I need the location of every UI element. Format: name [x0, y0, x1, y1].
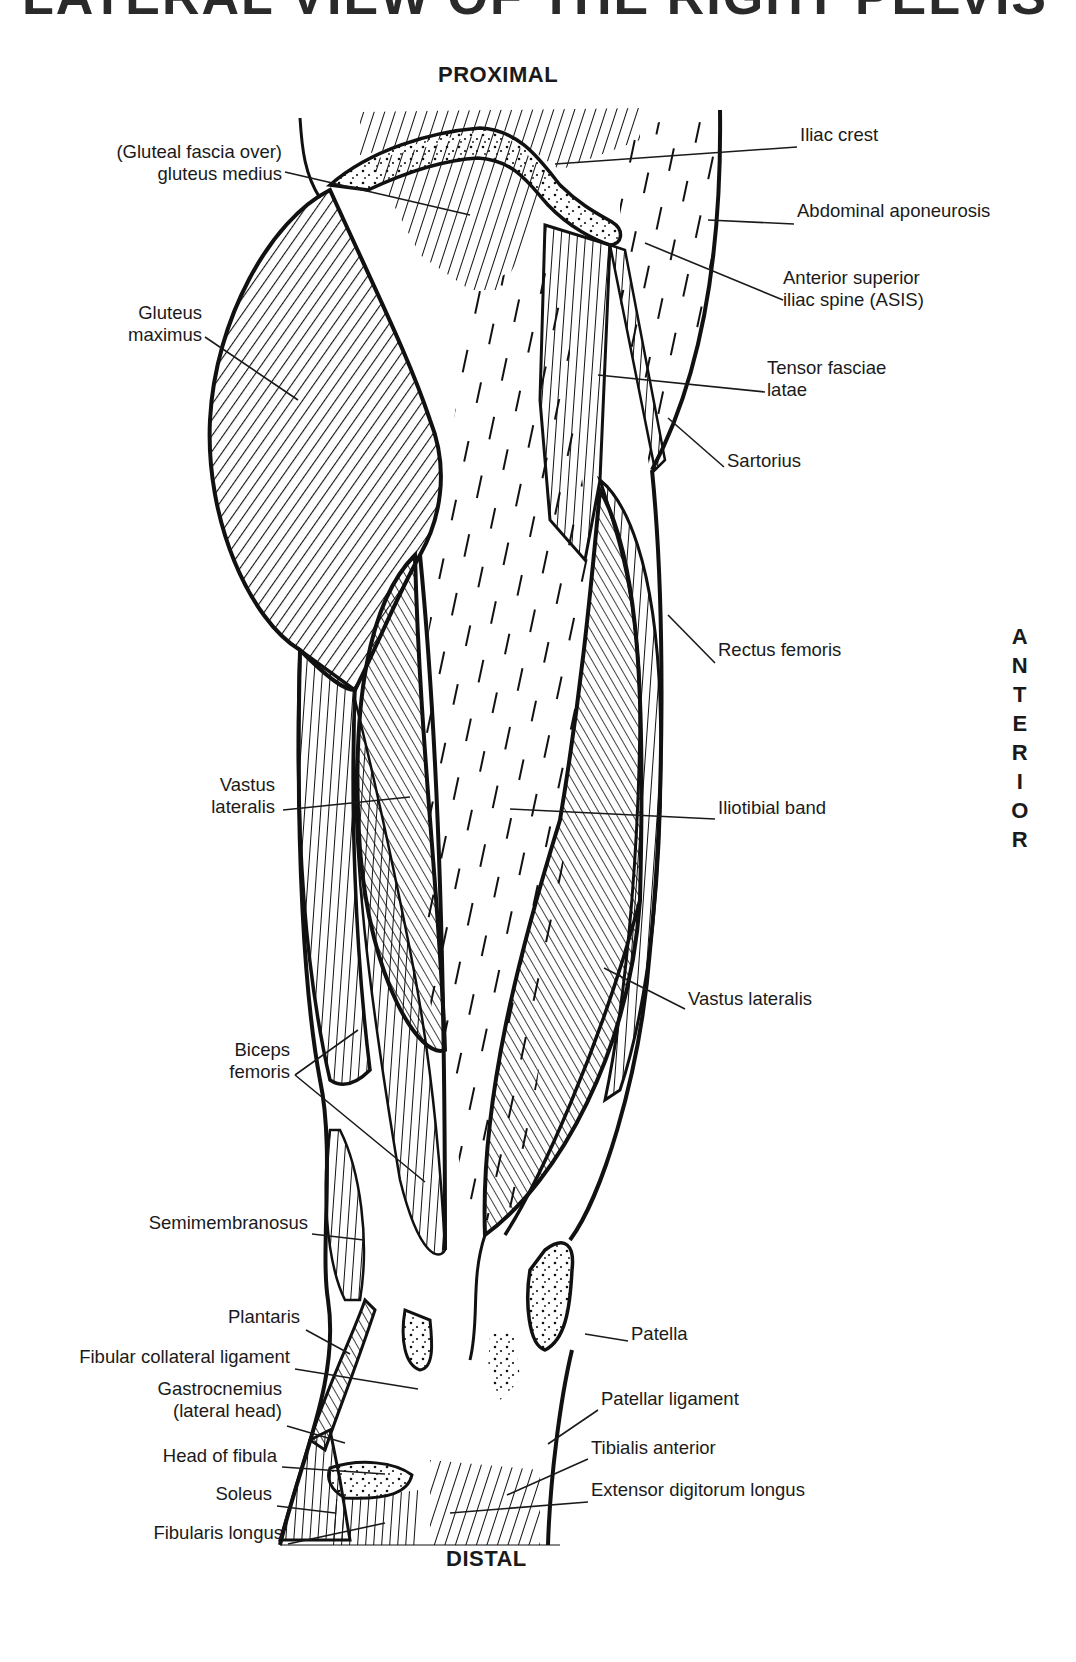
leader-line-vastus-lateralis-right	[604, 968, 685, 1009]
label-line: Tibialis anterior	[591, 1437, 716, 1459]
label-fibular-collateral-ligament: Fibular collateral ligament	[0, 1346, 290, 1368]
label-gastrocnemius: Gastrocnemius(lateral head)	[0, 1378, 282, 1422]
label-iliotibial-band: Iliotibial band	[718, 797, 826, 819]
label-vastus-lateralis-right: Vastus lateralis	[688, 988, 812, 1010]
leader-line-plantaris	[306, 1330, 350, 1354]
label-soleus: Soleus	[0, 1483, 272, 1505]
leader-line-semimembranosus	[312, 1234, 364, 1240]
label-tibialis-anterior: Tibialis anterior	[591, 1437, 716, 1459]
label-line: Soleus	[0, 1483, 272, 1505]
label-head-of-fibula: Head of fibula	[0, 1445, 277, 1467]
leader-line-gastrocnemius	[287, 1426, 345, 1443]
label-line: Iliac crest	[800, 124, 878, 146]
label-patella: Patella	[631, 1323, 688, 1345]
label-vastus-lateralis-left: Vastuslateralis	[0, 774, 275, 818]
label-line: femoris	[0, 1061, 290, 1083]
label-line: lateralis	[0, 796, 275, 818]
label-line: Semimembranosus	[0, 1212, 308, 1234]
label-line: gluteus medius	[0, 163, 282, 185]
label-line: Anterior superior	[783, 267, 924, 289]
label-fibularis-longus: Fibularis longus	[0, 1522, 283, 1544]
label-patellar-ligament: Patellar ligament	[601, 1388, 739, 1410]
leader-line-extensor-digitorum-longus	[450, 1502, 588, 1513]
leader-line-iliac-crest	[555, 147, 797, 164]
label-line: Extensor digitorum longus	[591, 1479, 805, 1501]
leader-line-sartorius	[668, 418, 724, 467]
label-biceps-femoris: Bicepsfemoris	[0, 1039, 290, 1083]
label-gluteus-maximus: Gluteusmaximus	[0, 302, 202, 346]
label-plantaris: Plantaris	[0, 1306, 300, 1328]
label-line: Abdominal aponeurosis	[797, 200, 990, 222]
label-line: Patellar ligament	[601, 1388, 739, 1410]
label-line: Gastrocnemius	[0, 1378, 282, 1400]
label-line: maximus	[0, 324, 202, 346]
label-line: (lateral head)	[0, 1400, 282, 1422]
leader-line-asis	[645, 243, 783, 300]
leader-line-tensor-fasciae-latae	[598, 375, 765, 392]
label-line: Vastus lateralis	[688, 988, 812, 1010]
label-line: latae	[767, 379, 886, 401]
label-line: iliac spine (ASIS)	[783, 289, 924, 311]
label-tensor-fasciae-latae: Tensor fasciaelatae	[767, 357, 886, 401]
label-line: Plantaris	[0, 1306, 300, 1328]
label-asis: Anterior superioriliac spine (ASIS)	[783, 267, 924, 311]
label-semimembranosus: Semimembranosus	[0, 1212, 308, 1234]
leader-line-fibular-collateral-ligament	[295, 1369, 418, 1389]
leader-line-soleus	[277, 1506, 335, 1513]
leader-line-gluteus-maximus	[205, 337, 298, 400]
label-line: (Gluteal fascia over)	[0, 141, 282, 163]
label-abdominal-aponeurosis: Abdominal aponeurosis	[797, 200, 990, 222]
label-line: Rectus femoris	[718, 639, 841, 661]
leader-line-tibialis-anterior	[507, 1459, 588, 1495]
leader-line-biceps-femoris	[295, 1030, 358, 1075]
label-line: Fibular collateral ligament	[0, 1346, 290, 1368]
leader-line-fibularis-longus	[288, 1523, 385, 1544]
label-line: Biceps	[0, 1039, 290, 1061]
leader-line-vastus-lateralis-left	[283, 797, 410, 810]
leader-line-iliotibial-band	[510, 809, 715, 819]
leader-line-patella	[585, 1334, 628, 1341]
label-extensor-digitorum-longus: Extensor digitorum longus	[591, 1479, 805, 1501]
label-gluteal-fascia: (Gluteal fascia over)gluteus medius	[0, 141, 282, 185]
leader-line-biceps-femoris	[295, 1075, 425, 1182]
label-line: Gluteus	[0, 302, 202, 324]
anatomy-diagram: LATERAL VIEW OF THE RIGHT PELVIS PROXIMA…	[0, 0, 1076, 1662]
label-line: Vastus	[0, 774, 275, 796]
label-line: Head of fibula	[0, 1445, 277, 1467]
label-line: Tensor fasciae	[767, 357, 886, 379]
label-sartorius: Sartorius	[727, 450, 801, 472]
label-line: Sartorius	[727, 450, 801, 472]
label-line: Iliotibial band	[718, 797, 826, 819]
label-rectus-femoris: Rectus femoris	[718, 639, 841, 661]
leader-line-abdominal-aponeurosis	[708, 220, 794, 224]
leader-line-rectus-femoris	[668, 615, 715, 663]
label-line: Patella	[631, 1323, 688, 1345]
leader-line-head-of-fibula	[282, 1467, 385, 1474]
leader-line-gluteal-fascia	[285, 172, 470, 215]
label-line: Fibularis longus	[0, 1522, 283, 1544]
label-iliac-crest: Iliac crest	[800, 124, 878, 146]
